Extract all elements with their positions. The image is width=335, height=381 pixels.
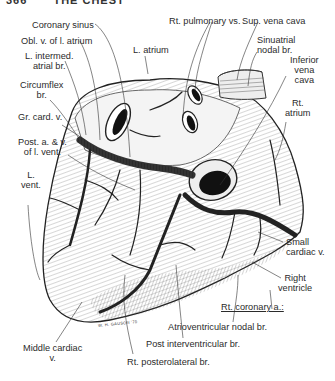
label-coronary-sinus: Coronary sinus — [32, 20, 94, 30]
label-inferior-vena-cava: Inferior vena cava — [290, 55, 319, 85]
label-l-intermed-atrial-br: L. intermed. atrial br. — [25, 51, 74, 71]
label-post-a-v-l-vent: Post. a. & v. of l. vent. — [18, 137, 67, 157]
label-sup-vena-cava: Sup. vena cava — [242, 16, 305, 26]
label-rt-pulmonary-vs: Rt. pulmonary vs. — [169, 16, 240, 26]
label-post-interventricular-br: Post interventricular br. — [146, 339, 240, 349]
superior-vena-cava — [218, 70, 266, 99]
label-sinuatrial-nodal-br: Sinuatrial nodal br. — [257, 35, 295, 55]
label-l-vent: L. vent. — [21, 170, 41, 190]
label-middle-cardiac-v: Middle cardiac v. — [23, 343, 82, 363]
label-rt-posterolateral-br: Rt. posterolateral br. — [127, 357, 210, 367]
label-small-cardiac-v: Small cardiac v. — [286, 237, 325, 257]
label-gr-card-v: Gr. card. v. — [18, 112, 62, 122]
label-l-atrium: L. atrium — [133, 45, 169, 55]
label-circumflex-br: Circumflex br. — [20, 80, 63, 100]
label-av-nodal-br: Atrioventricular nodal br. — [168, 322, 267, 332]
label-rt-atrium: Rt. atrium — [285, 98, 311, 118]
label-rt-coronary-a: Rt. coronary a.: — [221, 302, 284, 312]
label-right-ventricle: Right ventricle — [278, 273, 312, 293]
label-obl-v-l-atrium: Obl. v. of l. atrium — [21, 36, 92, 46]
